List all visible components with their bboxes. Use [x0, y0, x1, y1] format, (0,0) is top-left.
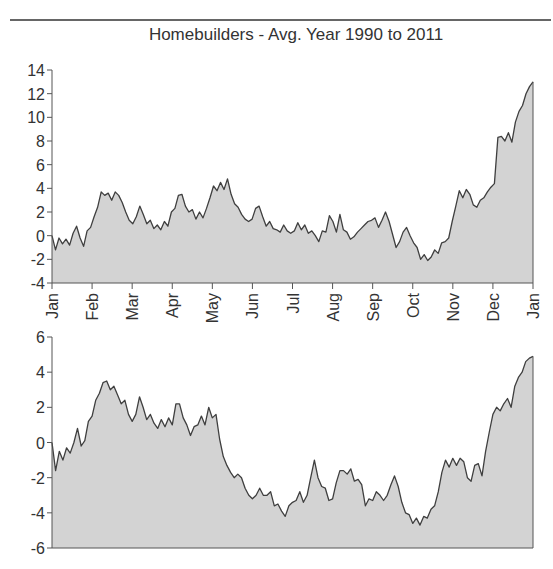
bottom-panel-y-tick-label: 0: [36, 435, 45, 452]
top-panel-y-tick-label: 2: [36, 204, 45, 221]
bottom-panel-y-tick-label: -6: [31, 540, 45, 557]
bottom-panel-y-tick-label: -2: [31, 470, 45, 487]
month-label: Aug: [325, 293, 342, 321]
top-panel: 14121086420-2-4: [27, 62, 533, 292]
month-label: Apr: [164, 292, 181, 318]
bottom-panel-y-tick-label: 2: [36, 399, 45, 416]
top-panel-y-tick-label: 0: [36, 228, 45, 245]
top-panel-area-fill: [52, 82, 533, 283]
top-panel-y-tick-label: -4: [31, 275, 45, 292]
bottom-panel-y-tick-label: 6: [36, 329, 45, 346]
bottom-panel-area-fill: [52, 356, 533, 548]
chart-canvas: Homebuilders - Avg. Year 1990 to 2011 14…: [0, 0, 553, 569]
month-label: Jun: [244, 293, 261, 319]
top-panel-y-tick-label: 8: [36, 133, 45, 150]
bottom-panel-y-tick-label: 4: [36, 364, 45, 381]
chart-title: Homebuilders - Avg. Year 1990 to 2011: [149, 25, 443, 44]
top-panel-y-tick-label: -2: [31, 251, 45, 268]
top-panel-y-tick-label: 4: [36, 180, 45, 197]
month-label: Jul: [285, 293, 302, 313]
month-label: May: [204, 293, 221, 323]
month-label: Nov: [445, 293, 462, 321]
top-panel-y-tick-label: 14: [27, 62, 45, 79]
month-label: Jan: [525, 293, 542, 319]
month-axis-labels: JanFebMarAprMayJunJulAugSepOctNovDecJan: [44, 283, 542, 323]
top-panel-y-tick-label: 10: [27, 109, 45, 126]
month-label: Jan: [44, 293, 61, 319]
month-label: Oct: [405, 292, 422, 317]
top-panel-y-tick-label: 12: [27, 86, 45, 103]
month-label: Dec: [485, 293, 502, 321]
month-label: Feb: [84, 293, 101, 321]
bottom-panel: 6420-2-4-6: [31, 329, 533, 557]
top-panel-y-tick-label: 6: [36, 157, 45, 174]
bottom-panel-y-tick-label: -4: [31, 505, 45, 522]
month-label: Sep: [365, 293, 382, 322]
month-label: Mar: [124, 292, 141, 320]
chart-figure: Homebuilders - Avg. Year 1990 to 2011 14…: [0, 0, 553, 569]
